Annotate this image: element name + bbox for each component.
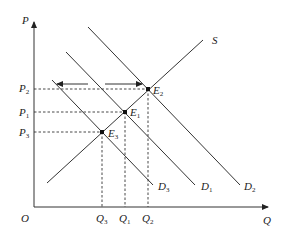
equilibrium-label-e3: E3 bbox=[107, 127, 119, 141]
demand-curve-d2 bbox=[88, 27, 240, 185]
supply-label: S bbox=[212, 34, 218, 46]
y-axis-label: P bbox=[21, 14, 29, 26]
quantity-label-q2: Q2 bbox=[142, 212, 154, 226]
price-label-p2: P2 bbox=[18, 82, 30, 96]
quantity-guides bbox=[102, 89, 148, 207]
equilibrium-point-e1 bbox=[123, 110, 127, 114]
quantity-label-q1: Q1 bbox=[119, 212, 131, 226]
demand-label-d2: D2 bbox=[243, 180, 256, 194]
equilibrium-label-e2: E2 bbox=[152, 84, 164, 98]
supply-demand-diagram: P Q O S D3 D1 D2 E2 E1 E3 P2 P1 P3 Q3 Q1… bbox=[0, 0, 288, 237]
price-label-p3: P3 bbox=[18, 126, 30, 140]
equilibrium-label-e1: E1 bbox=[129, 106, 141, 120]
equilibrium-point-e3 bbox=[100, 130, 104, 134]
demand-label-d1: D1 bbox=[200, 180, 213, 194]
price-label-p1: P1 bbox=[18, 106, 30, 120]
demand-label-d3: D3 bbox=[157, 180, 170, 194]
origin-label: O bbox=[21, 212, 29, 224]
equilibrium-point-e2 bbox=[146, 87, 150, 91]
quantity-label-q3: Q3 bbox=[96, 212, 108, 226]
x-axis-label: Q bbox=[263, 214, 271, 226]
